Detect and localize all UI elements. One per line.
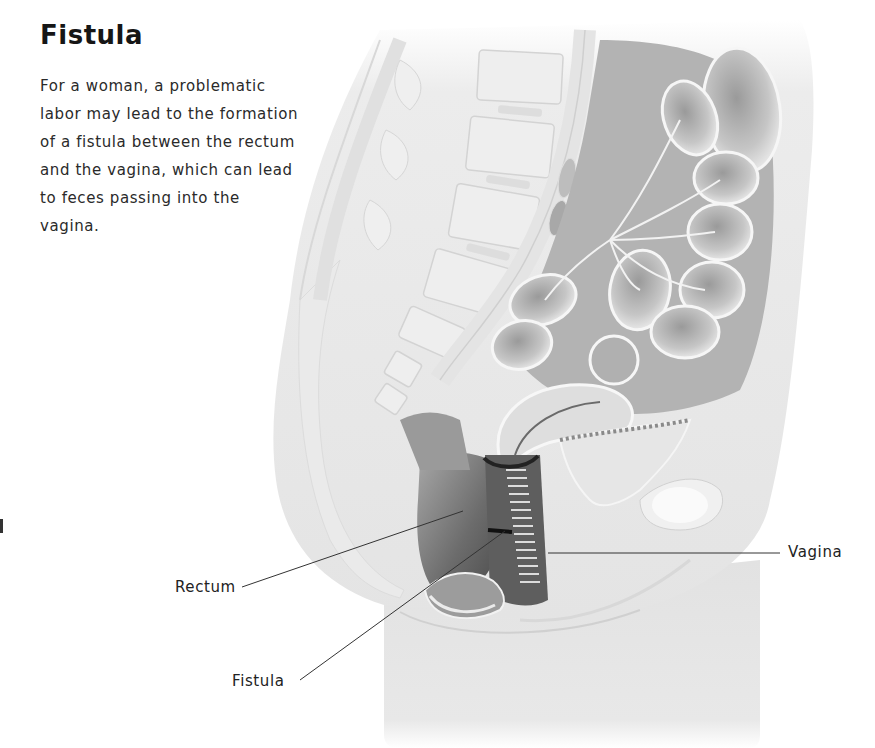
description-text: For a woman, a problematic labor may lea… — [40, 72, 300, 240]
cropped-text-fragment — [0, 519, 3, 533]
page-title: Fistula — [40, 20, 143, 50]
fistula-channel — [488, 530, 512, 532]
label-fistula: Fistula — [232, 672, 284, 690]
label-vagina: Vagina — [788, 543, 842, 561]
label-rectum: Rectum — [175, 578, 236, 596]
